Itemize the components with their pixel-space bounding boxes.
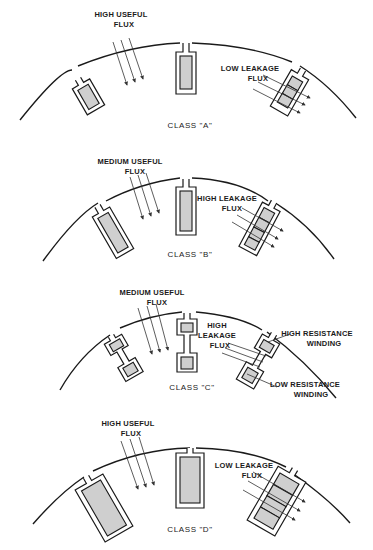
rotor-slot-center: [176, 448, 204, 508]
panel-class-d: HIGH USEFUL FLUX LOW LEAKAGE FLUX CLASS …: [33, 419, 350, 542]
leakage-flux-label: HIGH: [207, 321, 227, 330]
useful-flux-label-2: FLUX: [147, 298, 167, 307]
useful-flux-label-2: FLUX: [114, 20, 134, 29]
useful-flux-label: MEDIUM USEFUL: [119, 288, 184, 297]
useful-flux-arrows: [113, 38, 143, 85]
useful-flux-label-2: FLUX: [121, 429, 141, 438]
class-label: CLASS "A": [168, 121, 213, 130]
high-resistance-label-2: WINDING: [307, 339, 342, 348]
useful-flux-label-2: FLUX: [125, 167, 145, 176]
leakage-flux-label-2: LEAKAGE: [198, 331, 236, 340]
useful-flux-arrows: [121, 437, 154, 489]
rotor-slot-center: [176, 43, 196, 94]
rotor-slot-right: [239, 197, 283, 256]
rotor-slot-left: [72, 469, 133, 542]
leakage-flux-label-2: FLUX: [242, 471, 262, 480]
class-label: CLASS "B": [168, 250, 213, 259]
low-resistance-label-2: WINDING: [294, 390, 329, 399]
class-label: CLASS "D": [167, 525, 212, 534]
leakage-flux-label: LOW LEAKAGE: [221, 64, 279, 73]
leakage-flux-label-2: FLUX: [248, 74, 268, 83]
useful-flux-arrows: [138, 304, 168, 354]
useful-flux-label: MEDIUM USEFUL: [97, 157, 162, 166]
panel-class-a: HIGH USEFUL FLUX LOW LEAKAGE FLUX CLASS …: [20, 10, 356, 130]
high-resistance-label: HIGH RESISTANCE: [281, 329, 353, 338]
useful-flux-arrows: [130, 173, 159, 219]
useful-flux-label: HIGH USEFUL: [94, 10, 147, 19]
class-label: CLASS "C": [169, 383, 214, 392]
low-resistance-label: LOW RESISTANCE: [270, 380, 340, 389]
panel-class-c: MEDIUM USEFUL FLUX HIGH LEAKAGE FLUX HIG…: [60, 288, 353, 399]
leakage-flux-label-3: FLUX: [210, 341, 230, 350]
leakage-flux-label-2: FLUX: [222, 204, 242, 213]
rotor-slot-left: [69, 74, 104, 115]
rotor-slot-left: [102, 331, 143, 382]
useful-flux-label: HIGH USEFUL: [101, 419, 154, 428]
panel-class-b: MEDIUM USEFUL FLUX HIGH LEAKAGE FLUX CLA…: [43, 157, 334, 261]
leakage-flux-label: LOW LEAKAGE: [215, 461, 273, 470]
rotor-slot-center: [176, 179, 196, 235]
leakage-flux-label: HIGH LEAKAGE: [197, 194, 257, 203]
rotor-slot-center: [177, 313, 197, 372]
rotor-slot-classes-diagram: HIGH USEFUL FLUX LOW LEAKAGE FLUX CLASS …: [0, 0, 373, 550]
rotor-slot-left: [89, 201, 134, 259]
